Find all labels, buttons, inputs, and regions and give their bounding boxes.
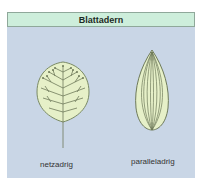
parallel-veined-leaf-icon [132,48,172,140]
header-bar: Blattadern [7,12,195,27]
label-netzadrig: netzadrig [40,160,73,169]
diagram-title: Blattadern [79,15,124,25]
diagram-panel: Blattadern net [7,12,195,178]
label-paralleladrig: paralleladrig [131,157,175,166]
net-veined-leaf-icon [33,58,93,150]
